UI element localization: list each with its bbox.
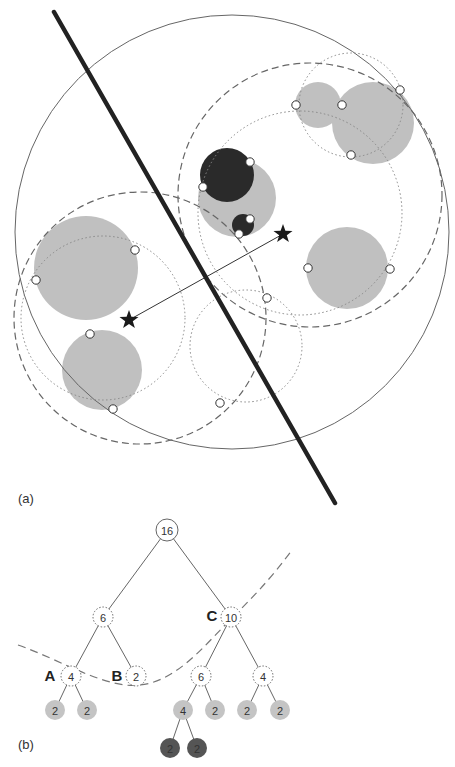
node-count-label: 2	[133, 671, 139, 683]
node-count-label: 2	[212, 705, 218, 717]
tree-edge	[103, 530, 167, 617]
node-count-label: 10	[225, 612, 237, 624]
tree-node-l2: 2	[77, 700, 97, 720]
dark-disc	[200, 148, 254, 202]
tree-node-n10: 10	[221, 607, 241, 627]
support-point	[292, 101, 300, 109]
node-count-label: 2	[52, 705, 58, 717]
node-count-label: 2	[167, 743, 173, 755]
star-centroid-icon	[274, 224, 293, 242]
support-point	[109, 405, 117, 413]
tree-node-l1: 2	[45, 700, 65, 720]
support-point	[386, 265, 394, 273]
support-point	[86, 330, 94, 338]
support-point	[246, 158, 254, 166]
node-count-label: 4	[68, 671, 74, 683]
support-point	[396, 86, 404, 94]
gray-disc	[62, 330, 142, 410]
panel-label-b: (b)	[18, 737, 34, 752]
node-letter-b: B	[112, 667, 123, 684]
tree-node-n6r: 6	[191, 666, 211, 686]
tree-node-l6: 2	[270, 700, 290, 720]
support-point	[32, 276, 40, 284]
figure-canvas: 16610426422422222ABC	[0, 0, 455, 767]
support-point	[338, 101, 346, 109]
gray-disc	[306, 227, 388, 309]
diagram-a-circle-packing	[14, 12, 449, 503]
tree-node-l4: 2	[205, 700, 225, 720]
support-point	[235, 230, 243, 238]
node-count-label: 2	[194, 743, 200, 755]
tree-node-l5: 2	[237, 700, 257, 720]
support-point	[347, 151, 355, 159]
node-count-label: 2	[244, 705, 250, 717]
tree-node-nA: 4	[61, 666, 81, 686]
star-centroid-icon	[120, 310, 139, 328]
node-count-label: 2	[277, 705, 283, 717]
node-count-label: 4	[180, 705, 186, 717]
cut-boundary-curve	[18, 550, 292, 685]
tree-node-n6: 6	[93, 607, 113, 627]
support-point	[263, 294, 271, 302]
node-count-label: 6	[100, 612, 106, 624]
node-count-label: 4	[260, 671, 266, 683]
gray-disc	[34, 216, 138, 320]
node-count-label: 2	[84, 705, 90, 717]
support-point	[131, 246, 139, 254]
support-point	[199, 183, 207, 191]
node-count-label: 16	[161, 525, 173, 537]
tree-node-n4r: 4	[253, 666, 273, 686]
tree-node-l3: 4	[173, 700, 193, 720]
tree-node-d1: 2	[160, 738, 180, 758]
panel-label-a: (a)	[18, 491, 34, 506]
support-point	[246, 215, 254, 223]
node-letter-a: A	[45, 667, 56, 684]
tree-node-nB: 2	[126, 666, 146, 686]
tree-node-d2: 2	[187, 738, 207, 758]
diagram-b-tree: 16610426422422222ABC	[18, 519, 292, 758]
support-point	[216, 399, 224, 407]
node-count-label: 6	[198, 671, 204, 683]
tree-node-root: 16	[156, 519, 178, 541]
tree-edge	[167, 530, 231, 617]
node-letter-c: C	[207, 607, 218, 624]
support-point	[304, 264, 312, 272]
